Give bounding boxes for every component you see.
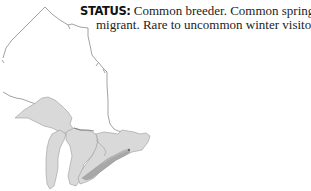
border-ticks [2, 25, 105, 73]
lake-michigan-region [46, 130, 66, 189]
status-line-2: migrant. Rare to uncommon winter visitor [80, 18, 311, 32]
status-line-1: STATUS: Common breeder. Common spring an… [80, 4, 311, 18]
status-label: STATUS: [80, 4, 131, 18]
lake-superior-region [15, 97, 74, 134]
status-text: STATUS: Common breeder. Common spring an… [80, 4, 311, 32]
western-border [3, 92, 40, 104]
status-line-1-text: Common breeder. Common spring and fall [134, 3, 311, 18]
range-dot [128, 149, 130, 151]
